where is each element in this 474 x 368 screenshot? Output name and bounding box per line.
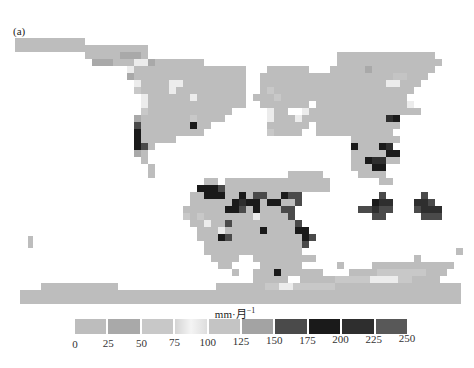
grid-cell xyxy=(162,66,169,73)
grid-cell xyxy=(190,129,197,136)
grid-cell xyxy=(447,297,454,304)
grid-cell xyxy=(419,290,426,297)
grid-cell xyxy=(209,297,216,304)
colorbar-tick-label: 50 xyxy=(136,337,147,349)
grid-cell xyxy=(127,66,134,73)
grid-cell xyxy=(419,262,426,269)
grid-cell xyxy=(253,206,260,213)
grid-cell xyxy=(358,122,365,129)
grid-cell xyxy=(176,101,183,108)
grid-cell xyxy=(323,73,330,80)
grid-cell xyxy=(204,192,211,199)
grid-cell xyxy=(372,143,379,150)
grid-cell xyxy=(307,297,314,304)
grid-cell xyxy=(225,192,232,199)
grid-cell xyxy=(274,262,281,269)
grid-cell xyxy=(260,73,267,80)
grid-cell xyxy=(99,52,106,59)
grid-cell xyxy=(288,227,295,234)
grid-cell xyxy=(141,122,148,129)
grid-cell xyxy=(358,94,365,101)
grid-cell xyxy=(344,115,351,122)
grid-cell xyxy=(183,101,190,108)
grid-cell xyxy=(113,45,120,52)
grid-cell xyxy=(176,108,183,115)
grid-cell xyxy=(232,101,239,108)
grid-cell xyxy=(141,150,148,157)
grid-cell xyxy=(204,213,211,220)
grid-cell xyxy=(141,52,148,59)
grid-cell xyxy=(384,297,391,304)
grid-cell xyxy=(379,171,386,178)
grid-cell xyxy=(349,269,356,276)
grid-cell xyxy=(260,101,267,108)
grid-cell xyxy=(379,66,386,73)
grid-cell xyxy=(379,129,386,136)
grid-cell xyxy=(211,87,218,94)
grid-cell xyxy=(232,241,239,248)
grid-cell xyxy=(405,262,412,269)
grid-cell xyxy=(337,87,344,94)
grid-cell xyxy=(141,115,148,122)
grid-cell xyxy=(225,185,232,192)
grid-cell xyxy=(34,297,41,304)
grid-cell xyxy=(274,73,281,80)
grid-cell xyxy=(358,115,365,122)
grid-cell xyxy=(83,290,90,297)
grid-cell xyxy=(356,276,363,283)
grid-cell xyxy=(274,115,281,122)
grid-cell xyxy=(218,227,225,234)
grid-cell xyxy=(267,185,274,192)
grid-cell xyxy=(295,122,302,129)
grid-cell xyxy=(295,94,302,101)
grid-cell xyxy=(302,122,309,129)
grid-cell xyxy=(204,178,211,185)
grid-cell xyxy=(281,248,288,255)
grid-cell xyxy=(302,234,309,241)
grid-cell xyxy=(267,115,274,122)
grid-cell xyxy=(155,115,162,122)
grid-cell xyxy=(309,108,316,115)
grid-cell xyxy=(377,290,384,297)
colorbar-bin xyxy=(175,319,206,334)
grid-cell xyxy=(393,87,400,94)
grid-cell xyxy=(372,206,379,213)
grid-cell xyxy=(197,206,204,213)
grid-cell xyxy=(412,290,419,297)
grid-cell xyxy=(316,73,323,80)
grid-cell xyxy=(337,66,344,73)
grid-cell xyxy=(295,178,302,185)
grid-cell xyxy=(344,59,351,66)
grid-cell xyxy=(377,297,384,304)
grid-cell xyxy=(169,73,176,80)
grid-cell xyxy=(267,262,274,269)
grid-cell xyxy=(90,283,97,290)
grid-cell xyxy=(316,171,323,178)
grid-cell xyxy=(428,199,435,206)
grid-cell xyxy=(211,206,218,213)
grid-cell xyxy=(379,115,386,122)
grid-cell xyxy=(372,80,379,87)
grid-cell xyxy=(386,80,393,87)
grid-cell xyxy=(111,283,118,290)
grid-cell xyxy=(155,94,162,101)
colorbar-bin xyxy=(108,319,139,334)
grid-cell xyxy=(316,94,323,101)
grid-cell xyxy=(428,52,435,59)
grid-cell xyxy=(232,94,239,101)
colorbar-tick-label: 100 xyxy=(200,336,217,348)
grid-cell xyxy=(97,290,104,297)
grid-cell xyxy=(267,80,274,87)
grid-cell xyxy=(302,87,309,94)
grid-cell xyxy=(99,59,106,66)
grid-cell xyxy=(281,115,288,122)
grid-cell xyxy=(225,108,232,115)
grid-cell xyxy=(400,94,407,101)
grid-cell xyxy=(428,59,435,66)
grid-cell xyxy=(407,66,414,73)
grid-cell xyxy=(183,122,190,129)
grid-cell xyxy=(162,87,169,94)
grid-cell xyxy=(365,87,372,94)
grid-cell xyxy=(281,276,288,283)
grid-cell xyxy=(267,255,274,262)
